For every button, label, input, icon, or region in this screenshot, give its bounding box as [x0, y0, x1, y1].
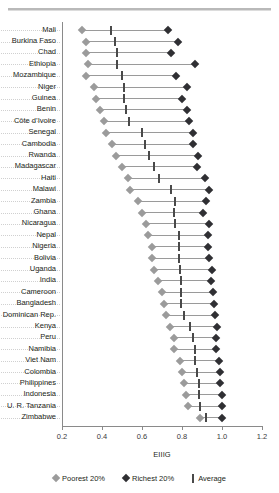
richest-marker — [172, 72, 180, 80]
poorest-marker — [160, 299, 168, 307]
poorest-marker — [154, 277, 162, 285]
richest-marker — [211, 311, 219, 319]
category-label: Ghana — [0, 207, 56, 216]
x-axis-title: EIIIG — [62, 450, 262, 459]
x-tick-label: 0.4 — [87, 432, 117, 441]
average-marker — [189, 322, 191, 331]
range-connector — [82, 30, 168, 31]
average-marker — [170, 185, 172, 194]
legend-label: Richest 20% — [132, 474, 174, 483]
poorest-marker — [182, 391, 190, 399]
poorest-marker — [144, 231, 152, 239]
range-connector — [86, 52, 171, 53]
range-connector — [164, 303, 214, 304]
category-label: Guinea — [0, 93, 56, 102]
category-label: Colombia — [0, 367, 56, 376]
average-marker — [180, 299, 182, 308]
poorest-marker — [112, 151, 120, 159]
average-marker — [179, 265, 181, 274]
x-tick-label: 0.2 — [47, 432, 77, 441]
range-connector — [152, 258, 209, 259]
category-label: Philippines — [0, 378, 56, 387]
diamond-icon — [52, 474, 60, 482]
legend-item-poorest: Poorest 20% — [53, 474, 105, 483]
richest-marker — [207, 277, 215, 285]
range-connector — [128, 178, 205, 179]
average-marker — [194, 345, 196, 354]
richest-marker — [216, 368, 224, 376]
average-marker — [158, 174, 160, 183]
range-connector — [170, 326, 217, 327]
x-tick-label: 0.8 — [167, 432, 197, 441]
category-label: Nicaragua — [0, 218, 56, 227]
category-label: Rwanda — [0, 150, 56, 159]
average-marker — [198, 379, 200, 388]
richest-marker — [185, 117, 193, 125]
category-label: Mali — [0, 25, 56, 34]
average-marker — [148, 151, 150, 160]
average-bar-icon — [192, 474, 194, 483]
category-label: Benin — [0, 104, 56, 113]
category-label: Uganda — [0, 264, 56, 273]
richest-marker — [189, 129, 197, 137]
average-marker — [183, 311, 185, 320]
range-connector — [104, 121, 189, 122]
x-tick — [262, 426, 263, 430]
legend-item-richest: Richest 20% — [123, 474, 174, 483]
category-label: Nigeria — [0, 241, 56, 250]
average-marker — [141, 128, 143, 137]
average-marker — [180, 288, 182, 297]
category-label: India — [0, 275, 56, 284]
category-label: Zimbabwe — [0, 412, 56, 421]
poorest-marker — [124, 174, 132, 182]
category-label: Malawi — [0, 184, 56, 193]
y-axis-line — [62, 22, 63, 426]
poorest-marker — [178, 368, 186, 376]
poorest-marker — [134, 197, 142, 205]
average-marker — [125, 105, 127, 114]
category-label: Cameroon — [0, 287, 56, 296]
richest-marker — [205, 186, 213, 194]
poorest-marker — [176, 356, 184, 364]
poorest-marker — [166, 322, 174, 330]
range-connector — [184, 383, 220, 384]
average-marker — [110, 26, 112, 35]
poorest-marker — [118, 163, 126, 171]
richest-marker — [213, 322, 221, 330]
range-connector — [182, 372, 220, 373]
range-connector — [152, 246, 208, 247]
poorest-marker — [100, 117, 108, 125]
range-connector — [86, 75, 176, 76]
range-connector — [122, 166, 197, 167]
richest-marker — [209, 288, 217, 296]
poorest-marker — [102, 129, 110, 137]
x-tick — [222, 426, 223, 430]
poorest-marker — [158, 288, 166, 296]
poorest-marker — [184, 402, 192, 410]
richest-marker — [216, 379, 224, 387]
category-label: Madagascar — [0, 161, 56, 170]
richest-marker — [194, 151, 202, 159]
range-connector — [138, 201, 206, 202]
range-connector — [116, 155, 198, 156]
legend-label: Average — [198, 474, 226, 483]
poorest-marker — [150, 265, 158, 273]
average-marker — [192, 333, 194, 342]
richest-marker — [218, 413, 226, 421]
legend-item-average: Average — [192, 474, 226, 483]
poorest-marker — [148, 242, 156, 250]
richest-marker — [218, 402, 226, 410]
category-label: Viet Nam — [0, 355, 56, 364]
poorest-marker — [142, 220, 150, 228]
richest-marker — [218, 391, 226, 399]
average-marker — [180, 276, 182, 285]
range-connector — [180, 360, 219, 361]
richest-marker — [204, 231, 212, 239]
richest-marker — [204, 242, 212, 250]
richest-marker — [210, 299, 218, 307]
poorest-marker — [180, 379, 188, 387]
average-marker — [114, 37, 116, 46]
category-label: Ethiopia — [0, 59, 56, 68]
range-connector — [162, 292, 213, 293]
x-tick — [142, 426, 143, 430]
